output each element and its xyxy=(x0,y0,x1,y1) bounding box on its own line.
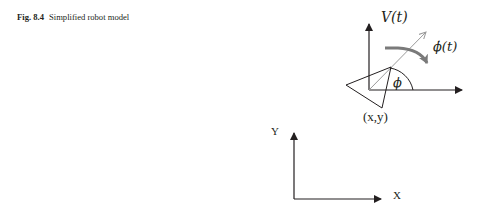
world-frame: Y X xyxy=(271,125,401,201)
angular-velocity-label: ϕ̇(t) xyxy=(433,39,457,54)
world-x-label: X xyxy=(393,189,401,201)
world-y-label: Y xyxy=(271,125,279,137)
heading-angle-label: ϕ xyxy=(393,75,402,90)
robot-frame: V(t) ϕ̇(t) ϕ (x,y) xyxy=(346,9,462,124)
velocity-label: V(t) xyxy=(381,9,408,25)
position-label: (x,y) xyxy=(363,109,388,124)
rotation-arrow xyxy=(385,48,427,63)
robot-model-diagram: V(t) ϕ̇(t) ϕ (x,y) Y X xyxy=(0,0,477,208)
